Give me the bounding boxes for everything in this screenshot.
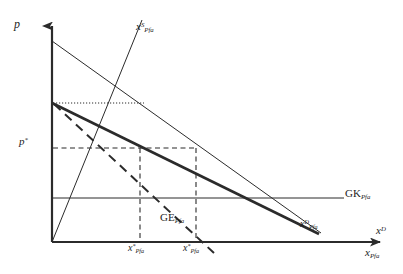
gk-label-sub: Pfa	[361, 193, 370, 200]
p-star-label: p*	[19, 136, 28, 147]
quantity-axis-label: xPfa	[365, 247, 379, 260]
gk-label-base: GK	[345, 187, 361, 199]
supply-label-sub: Pfa	[144, 26, 153, 33]
price-axis-label: p	[14, 18, 20, 30]
figure-canvas	[0, 0, 403, 274]
quantity-axis-sub: Pfa	[370, 252, 379, 259]
firm-demand-label: xDPfa	[300, 219, 318, 230]
ge-label-base: GE	[160, 211, 175, 223]
market-demand-curve	[52, 41, 321, 233]
tick2-sub: Pfa	[191, 247, 200, 254]
supply-curve-label: xSPfa	[136, 21, 154, 34]
firm-demand-curve	[52, 103, 319, 234]
supply-curve	[52, 20, 142, 242]
quantity-tick-label-1: x*Pfa	[128, 243, 144, 254]
tick1-sub: Pfa	[136, 247, 145, 254]
economics-supply-demand-figure: p xPfa xSPfa GKPfa GEPfa xD xDPfa p* x*P…	[0, 0, 403, 274]
ge-curve-label: GEPfa	[160, 212, 184, 225]
firm-demand-sub: Pfa	[309, 223, 318, 230]
p-star-sup: *	[25, 136, 28, 143]
quantity-tick-label-2: x*Pfa	[183, 243, 199, 254]
ge-label-sub: Pfa	[175, 217, 184, 224]
gk-line-label: GKPfa	[345, 188, 370, 201]
market-demand-sup: D	[381, 225, 386, 232]
market-demand-label: xD	[376, 225, 386, 236]
